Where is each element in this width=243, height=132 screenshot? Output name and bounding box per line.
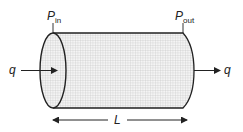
cylinder-body [53, 33, 194, 108]
pipe-flow-diagram: Pin Pout q q L [0, 0, 243, 132]
outflow-label: q [224, 63, 231, 77]
outlet-pressure-label: Pout [175, 9, 195, 25]
inflow-label: q [9, 63, 16, 77]
diagram-svg: Pin Pout q q L [0, 0, 243, 132]
length-label: L [114, 113, 121, 127]
inlet-pressure-label: Pin [47, 9, 61, 25]
